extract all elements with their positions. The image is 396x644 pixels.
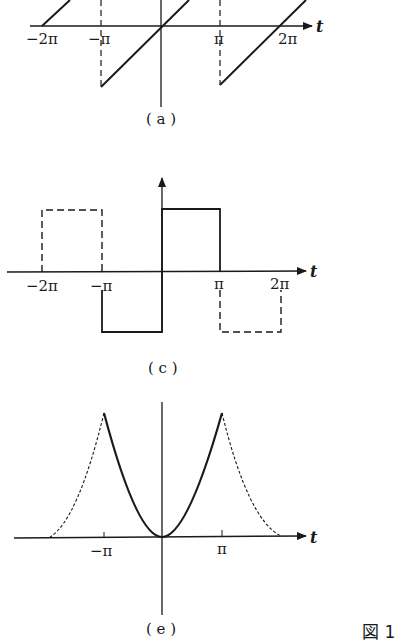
panel-caption: ( c ) — [148, 359, 178, 377]
panel-c: −2π −π π 2π t ( c ) — [7, 178, 318, 377]
tick-label: −2π — [26, 277, 58, 295]
tick-label: −2π — [26, 30, 58, 48]
sawtooth-segment — [42, 0, 70, 26]
parabola-extension-dashed — [50, 413, 104, 537]
axis-var-label: t — [316, 17, 324, 36]
figure-number-label: 図 1 — [362, 622, 395, 642]
square-wave-solid — [102, 209, 220, 332]
tick-label: −π — [90, 542, 113, 560]
panel-caption: ( a ) — [146, 110, 176, 128]
sawtooth-segment — [101, 0, 189, 87]
panel-a: −2π −π π 2π t ( a ) — [26, 0, 324, 128]
tick-label: π — [214, 275, 224, 293]
parabola-extension-dashed — [222, 413, 281, 536]
figure-canvas: −2π −π π 2π t ( a ) −2π −π π 2π t ( c ) … — [0, 0, 396, 644]
axis-var-label: t — [310, 528, 318, 547]
tick-label: 2π — [270, 275, 290, 293]
square-wave-extension-dashed — [220, 290, 281, 332]
parabola-solid — [104, 413, 222, 537]
axis-var-label: t — [310, 262, 318, 281]
tick-label: 2π — [278, 30, 298, 48]
tick-label: −π — [88, 30, 111, 48]
tick-label: π — [217, 540, 227, 558]
panel-e: −π π t ( e ) — [14, 402, 318, 638]
t-axis — [7, 271, 306, 272]
tick-label: π — [214, 30, 224, 48]
square-wave-extension-dashed — [42, 210, 102, 272]
tick-label: −π — [90, 277, 113, 295]
panel-caption: ( e ) — [146, 620, 176, 638]
